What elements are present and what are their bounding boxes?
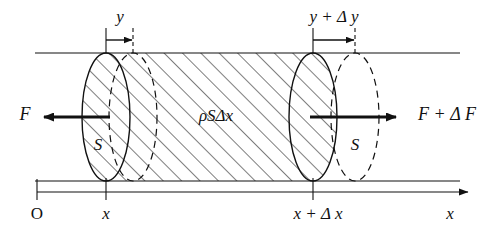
x-position-label: x [101,204,110,223]
figure-container: y y + Δ y F F + Δ F ρSΔx S S O x x + Δ x… [0,0,494,236]
x-axis-label: x [445,204,454,223]
left-area-label: S [94,135,103,154]
longitudinal-wave-element-diagram: y y + Δ y F F + Δ F ρSΔx S S O x x + Δ x… [0,0,494,236]
left-force-label: F [19,104,32,124]
right-force-label: F + Δ F [417,104,477,124]
x-plus-dx-position-label: x + Δ x [293,204,343,223]
left-displacement-label: y [114,7,124,26]
right-area-label: S [351,135,360,154]
right-displacement-label: y + Δ y [308,7,359,26]
origin-label: O [31,204,43,223]
mass-element-label: ρSΔx [198,106,234,125]
